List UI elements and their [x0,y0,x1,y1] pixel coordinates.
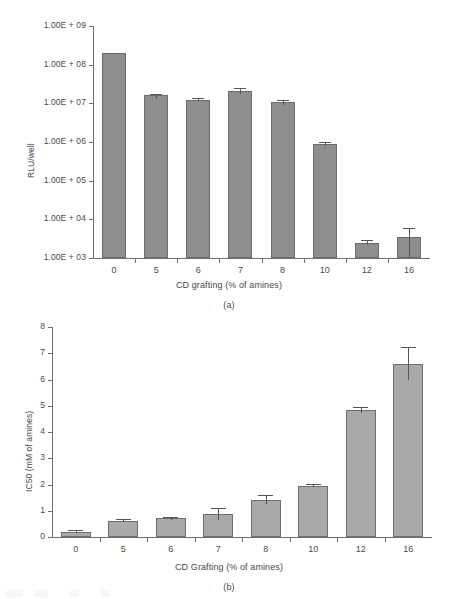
panel-b-x-tick-label: 8 [242,544,290,554]
panel-b-y-tick [48,432,52,433]
panel-a-y-tick-label: 1.00E + 05 [28,175,86,185]
panel-b-y-tick-label: 6 [35,374,45,384]
panel-b-y-tick-label: 7 [35,347,45,357]
panel-b-y-axis [52,327,53,537]
error-bar-cap-7 [211,508,226,509]
bar-12 [355,243,379,258]
panel-b-x-tick-label: 16 [385,544,433,554]
panel-a-y-tick [89,142,93,143]
panel-b-y-tick-label: 3 [35,452,45,462]
panel-a-x-tick [346,259,347,263]
bar-0 [102,53,126,258]
panel-b-x-tick-label: 7 [195,544,243,554]
panel-a-x-tick-label: 8 [262,265,304,275]
chart-panel-a: RLU/well 1.00E + 091.00E + 081.00E + 071… [0,8,458,308]
panel-a-y-tick-label: 1.00E + 09 [28,20,86,30]
bar-5 [108,521,138,537]
panel-b-y-tick [48,458,52,459]
error-bar-cap-10 [306,484,321,485]
error-bar-cap-8 [277,100,289,101]
error-bar-cap-0 [68,530,83,531]
panel-a-y-tick [89,103,93,104]
panel-b-plot-area: 87654321005678101216 [52,327,432,537]
error-bar-cap-8 [258,495,273,496]
panel-a-y-axis [93,26,94,258]
panel-b-x-tick [385,538,386,542]
panel-b-x-tick [195,538,196,542]
panel-b-y-tick-label: 1 [35,505,45,515]
panel-b-x-tick [100,538,101,542]
error-bar-cap-16 [401,347,416,348]
panel-a-y-tick [89,258,93,259]
error-bar-cap-16 [403,228,415,229]
panel-a-x-axis-label: CD grafting (% of amines) [0,280,458,290]
panel-b-x-tick [242,538,243,542]
panel-a-x-tick-label: 10 [304,265,346,275]
panel-a-y-tick-label: 1.00E + 04 [28,213,86,223]
panel-b-y-tick [48,511,52,512]
panel-b-y-tick-label: 0 [35,531,45,541]
bar-6 [186,100,210,258]
panel-a-plot-area: 1.00E + 091.00E + 081.00E + 071.00E + 06… [93,26,430,258]
bar-5 [144,95,168,258]
panel-b-y-tick-label: 8 [35,321,45,331]
panel-a-y-tick-label: 1.00E + 08 [28,59,86,69]
panel-a-y-tick-label: 1.00E + 07 [28,97,86,107]
panel-b-x-tick-label: 12 [337,544,385,554]
scan-artifact [6,590,146,597]
error-bar-cap-5 [116,519,131,520]
bar-8 [271,102,295,258]
panel-b-y-tick [48,537,52,538]
panel-a-y-tick [89,219,93,220]
panel-a-x-tick-label: 6 [177,265,219,275]
panel-a-y-tick [89,181,93,182]
panel-a-x-tick [135,259,136,263]
panel-a-y-tick [89,65,93,66]
bar-7 [228,91,252,258]
panel-b-y-tick [48,353,52,354]
panel-b-x-tick-label: 10 [290,544,338,554]
panel-a-x-tick-label: 5 [135,265,177,275]
error-bar-cap-7 [234,88,246,89]
panel-b-x-tick-label: 6 [147,544,195,554]
bar-8 [251,500,281,537]
error-bar-cap-12 [353,407,368,408]
panel-b-y-axis-label: IC50 (mM of amines) [24,411,34,492]
error-bar-16 [409,228,410,258]
panel-b-y-tick [48,380,52,381]
error-bar-16 [408,347,409,380]
panel-a-x-tick [177,259,178,263]
panel-b-y-tick-label: 5 [35,400,45,410]
panel-a-x-tick [219,259,220,263]
panel-b-y-tick [48,327,52,328]
panel-b-x-tick [290,538,291,542]
panel-a-x-tick [388,259,389,263]
panel-a-x-tick-label: 7 [219,265,261,275]
error-bar-cap-6 [192,98,204,99]
error-bar-cap-12 [361,240,373,241]
panel-b-y-tick [48,485,52,486]
bar-10 [298,486,328,537]
panel-a-x-tick [304,259,305,263]
panel-b-x-tick [337,538,338,542]
panel-b-x-tick-label: 0 [52,544,100,554]
error-bar-cap-10 [319,142,331,143]
panel-a-y-tick-label: 1.00E + 03 [28,252,86,262]
figure-page: RLU/well 1.00E + 091.00E + 081.00E + 071… [0,0,458,599]
panel-a-x-tick-label: 16 [388,265,430,275]
panel-b-x-tick-label: 5 [100,544,148,554]
panel-a-caption: (a) [0,300,458,310]
panel-b-y-tick [48,406,52,407]
panel-a-x-tick [262,259,263,263]
panel-b-x-tick [147,538,148,542]
error-bar-7 [218,508,219,520]
bar-12 [346,410,376,537]
error-bar-cap-6 [163,517,178,518]
bar-10 [313,144,337,258]
panel-a-y-tick-label: 1.00E + 06 [28,136,86,146]
panel-b-x-axis-label: CD Grafting (% of amines) [0,562,458,572]
error-bar-cap-5 [150,94,162,95]
chart-panel-b: IC50 (mM of amines) 87654321005678101216… [0,310,458,595]
panel-a-y-axis-label: RLU/well [26,143,36,178]
panel-b-y-tick-label: 4 [35,426,45,436]
